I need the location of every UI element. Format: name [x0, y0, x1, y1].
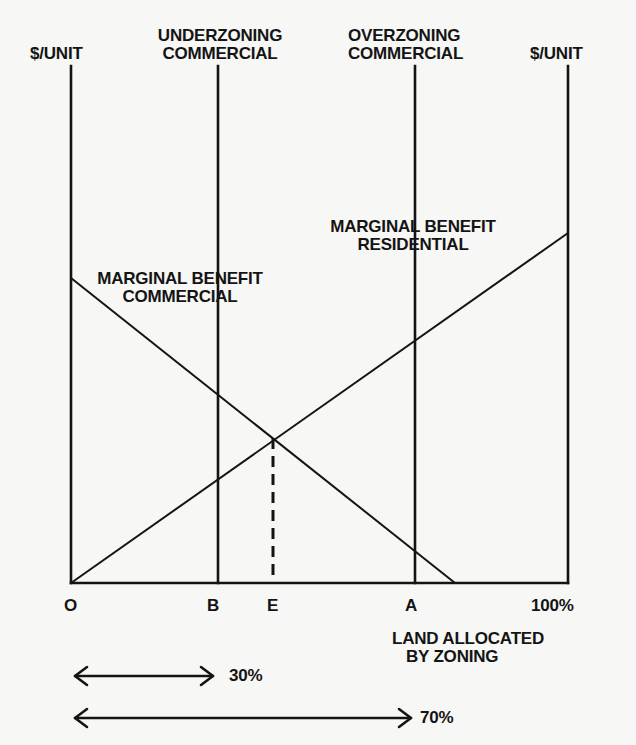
x-axis-title: LAND ALLOCATED BY ZONING: [392, 630, 544, 666]
x-axis-title-line1: LAND ALLOCATED: [392, 630, 544, 648]
x-tick-a: A: [405, 597, 417, 615]
overzoning-label-line2: COMMERCIAL: [348, 45, 463, 63]
residential-label-line1: MARGINAL BENEFIT: [323, 218, 503, 236]
right-y-axis-label: $/UNIT: [530, 45, 583, 63]
range-label-70: 70%: [420, 709, 453, 727]
residential-label-line2: RESIDENTIAL: [323, 236, 503, 254]
left-y-axis-label: $/UNIT: [30, 45, 83, 63]
underzoning-label-line1: UNDERZONING: [140, 27, 300, 45]
zoning-diagram: $/UNIT UNDERZONING COMMERCIAL OVERZONING…: [0, 0, 636, 745]
underzoning-label-line2: COMMERCIAL: [140, 45, 300, 63]
range-label-30: 30%: [229, 667, 262, 685]
underzoning-label: UNDERZONING COMMERCIAL: [140, 27, 300, 63]
x-axis-title-line2: BY ZONING: [392, 648, 544, 666]
x-tick-100: 100%: [531, 597, 574, 615]
x-tick-origin: O: [64, 597, 77, 615]
marginal-benefit-commercial-label: MARGINAL BENEFIT COMMERCIAL: [85, 270, 275, 306]
x-tick-e: E: [267, 597, 278, 615]
overzoning-label: OVERZONING COMMERCIAL: [348, 27, 463, 63]
marginal-benefit-commercial-curve: [71, 278, 455, 583]
commercial-label-line1: MARGINAL BENEFIT: [85, 270, 275, 288]
commercial-label-line2: COMMERCIAL: [85, 288, 275, 306]
overzoning-label-line1: OVERZONING: [348, 27, 463, 45]
marginal-benefit-residential-label: MARGINAL BENEFIT RESIDENTIAL: [323, 218, 503, 254]
x-tick-b: B: [207, 597, 219, 615]
